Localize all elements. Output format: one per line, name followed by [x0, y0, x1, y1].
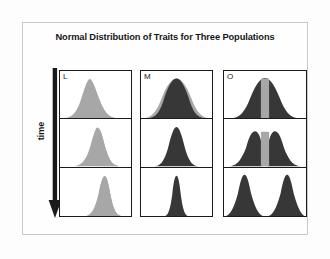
figure-root: Normal Distribution of Traits for Three …	[0, 0, 330, 259]
panel-M-row3	[141, 168, 212, 216]
distribution-curve-L3	[60, 168, 131, 216]
panel-column-L: L	[59, 70, 132, 217]
distribution-curve-O3	[224, 168, 306, 216]
panel-M-row2	[141, 119, 212, 167]
distribution-curve-O1	[224, 71, 306, 118]
distribution-curve-O2	[224, 119, 306, 166]
panel-M-row1: M	[141, 71, 212, 119]
panel-O-row1: O	[224, 71, 306, 119]
panel-column-M: M	[140, 70, 213, 217]
panel-label-L: L	[63, 72, 67, 82]
panel-L-row1: L	[60, 71, 131, 119]
distribution-curve-L2	[60, 119, 131, 166]
time-axis: time	[30, 68, 60, 218]
distribution-curve-M3	[141, 168, 212, 216]
page-title: Normal Distribution of Traits for Three …	[40, 32, 290, 44]
panel-L-row2	[60, 119, 131, 167]
panel-L-row3	[60, 168, 131, 216]
panel-grid: L	[59, 70, 307, 217]
panel-O-row2	[224, 119, 306, 167]
distribution-curve-M2	[141, 119, 212, 166]
panel-column-O: O	[223, 70, 307, 217]
distribution-curve-M1	[141, 71, 212, 118]
panel-O-row3	[224, 168, 306, 216]
panel-label-M: M	[144, 72, 151, 82]
time-axis-label: time	[36, 111, 46, 151]
distribution-curve-L1	[60, 71, 131, 118]
panel-label-O: O	[227, 72, 233, 82]
